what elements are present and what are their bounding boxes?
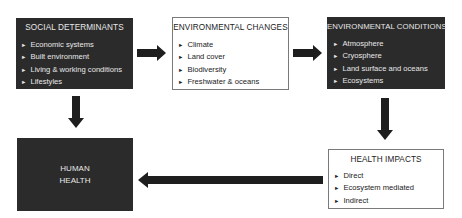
node-social-determinants: SOCIAL DETERMINANTS ►Economic systems ►B… xyxy=(16,18,133,89)
arrow-down-icon xyxy=(68,96,84,129)
bullet-arrow-icon: ► xyxy=(333,50,338,62)
node-title: SOCIAL DETERMINANTS xyxy=(16,23,133,32)
bullet-arrow-icon: ► xyxy=(334,195,339,207)
list-item: ►Climate xyxy=(178,39,288,51)
node-item-list: ►Direct ►Ecosystem mediated ►Indirect xyxy=(329,170,443,207)
node-item-list: ►Atmosphere ►Cryosphere ►Land surface an… xyxy=(327,38,445,88)
node-title: HUMAN HEALTH xyxy=(17,163,133,187)
list-item: ►Land surface and oceans xyxy=(333,63,445,75)
node-title: ENVIRONMENTAL CONDITIONS xyxy=(327,22,445,31)
list-item: ►Direct xyxy=(334,170,443,182)
bullet-arrow-icon: ► xyxy=(21,64,26,76)
list-item: ►Indirect xyxy=(334,195,443,207)
arrow-right-icon xyxy=(293,45,323,61)
arrow-left-icon xyxy=(138,172,324,188)
list-item: ►Atmosphere xyxy=(333,38,445,50)
bullet-arrow-icon: ► xyxy=(334,182,339,194)
bullet-arrow-icon: ► xyxy=(334,170,339,182)
bullet-arrow-icon: ► xyxy=(21,51,26,63)
node-environmental-changes: ENVIRONMENTAL CHANGES ►Climate ►Land cov… xyxy=(172,17,289,90)
bullet-arrow-icon: ► xyxy=(333,75,338,87)
list-item: ►Freshwater & oceans xyxy=(178,76,288,88)
node-health-impacts: HEALTH IMPACTS ►Direct ►Ecosystem mediat… xyxy=(328,149,444,209)
bullet-arrow-icon: ► xyxy=(21,76,26,88)
arrow-right-icon xyxy=(137,45,167,61)
list-item: ►Ecosystem mediated xyxy=(334,182,443,194)
list-item: ►Lifestyles xyxy=(21,76,133,88)
list-item: ►Economic systems xyxy=(21,39,133,51)
list-item: ►Ecosystems xyxy=(333,75,445,87)
bullet-arrow-icon: ► xyxy=(21,39,26,51)
node-item-list: ►Climate ►Land cover ►Biodiversity ►Fres… xyxy=(173,39,288,89)
arrow-down-icon xyxy=(377,98,393,141)
bullet-arrow-icon: ► xyxy=(178,39,183,51)
node-environmental-conditions: ENVIRONMENTAL CONDITIONS ►Atmosphere ►Cr… xyxy=(327,17,445,89)
list-item: ►Biodiversity xyxy=(178,64,288,76)
bullet-arrow-icon: ► xyxy=(178,76,183,88)
list-item: ►Living & working conditions xyxy=(21,64,133,76)
bullet-arrow-icon: ► xyxy=(333,63,338,75)
node-human-health: HUMAN HEALTH xyxy=(17,138,133,211)
node-title: ENVIRONMENTAL CHANGES xyxy=(173,23,288,32)
bullet-arrow-icon: ► xyxy=(178,64,183,76)
bullet-arrow-icon: ► xyxy=(333,38,338,50)
list-item: ►Built environment xyxy=(21,51,133,63)
list-item: ►Land cover xyxy=(178,51,288,63)
node-title: HEALTH IMPACTS xyxy=(329,155,443,164)
node-item-list: ►Economic systems ►Built environment ►Li… xyxy=(16,39,133,89)
list-item: ►Cryosphere xyxy=(333,50,445,62)
bullet-arrow-icon: ► xyxy=(178,51,183,63)
